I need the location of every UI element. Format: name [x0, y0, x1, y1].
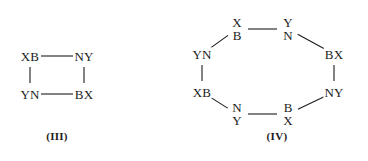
- vertex-top-right-n-atom: N: [283, 29, 292, 42]
- vertex-top-left-b-atom: B: [233, 29, 242, 42]
- bond-vertex-top-right-n-to-vertex-right-upper-bx: [298, 34, 325, 49]
- vertex-bottom-left-n-substituent: Y: [232, 114, 241, 127]
- vertex-bottom-right-b: XB: [283, 102, 292, 127]
- chemical-structures-figure: XBNYYNBX (III) XBYNBXNYXBYNXBYN (IV): [0, 0, 368, 161]
- bond-vertex-right-lower-ny-to-vertex-bottom-right-b: [298, 97, 324, 110]
- vertex-bottom-left-n: YN: [232, 102, 241, 127]
- vertex-left-lower-xb: XB: [192, 86, 212, 99]
- vertex-bottom-right-b-substituent: X: [283, 114, 292, 127]
- vertex-top-right-n: YN: [283, 17, 292, 42]
- vertex-top-left-b: XB: [232, 17, 241, 42]
- structure-iv-caption: (IV): [267, 130, 288, 142]
- structure-iv-bonds: [0, 0, 368, 161]
- vertex-right-lower-ny: NY: [323, 86, 344, 99]
- bond-vertex-left-upper-yn-to-vertex-top-left-b: [211, 35, 228, 47]
- vertex-left-upper-yn: YN: [191, 48, 212, 61]
- vertex-right-upper-bx: BX: [324, 48, 344, 61]
- bond-vertex-bottom-left-n-to-vertex-left-lower-xb: [211, 98, 227, 108]
